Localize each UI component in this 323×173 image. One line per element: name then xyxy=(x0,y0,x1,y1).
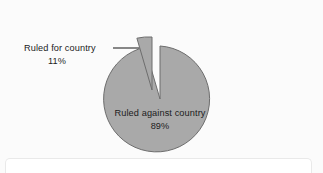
callout-label-value: 11% xyxy=(48,56,66,66)
pie-chart-figure: Ruled for country 11% Ruled against coun… xyxy=(0,0,323,173)
main-slice-label-value: 89% xyxy=(151,121,170,131)
pie-slice-ruled-against-country xyxy=(104,46,210,152)
pie-chart-svg: Ruled for country 11% Ruled against coun… xyxy=(0,0,323,173)
callout-label-name: Ruled for country xyxy=(24,43,96,53)
main-slice-label-name: Ruled against country xyxy=(115,108,206,118)
caption-panel xyxy=(5,158,312,173)
